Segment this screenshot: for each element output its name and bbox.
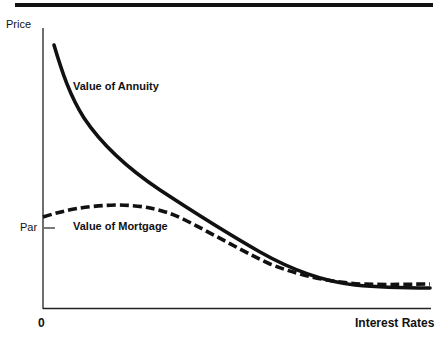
x-axis-label: Interest Rates — [355, 316, 434, 330]
top-rule — [15, 3, 433, 7]
annuity-series-label: Value of Annuity — [73, 80, 159, 92]
chart-canvas — [0, 0, 448, 347]
mortgage-curve — [43, 205, 430, 284]
y-axis-label: Price — [6, 18, 31, 30]
mortgage-series-label: Value of Mortgage — [73, 220, 168, 232]
origin-label: 0 — [38, 316, 45, 330]
par-label: Par — [20, 221, 37, 233]
